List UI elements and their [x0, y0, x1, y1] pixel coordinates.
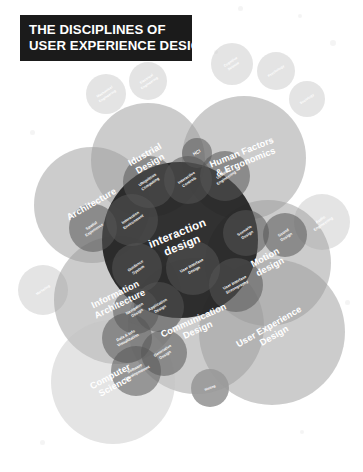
page-title: THE DISCIPLINES OF USER EXPERIENCE DESIG… [20, 15, 192, 61]
infographic-canvas: MechanicalEngineeringElectricalEngineeri… [0, 0, 363, 472]
venn-diagram: MechanicalEngineeringElectricalEngineeri… [0, 0, 363, 472]
title-line-2: USER EXPERIENCE DESIGN [29, 38, 183, 54]
title-line-1: THE DISCIPLINES OF [29, 22, 183, 38]
